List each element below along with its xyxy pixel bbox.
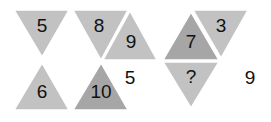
triangle-puzzle: 58973?610 59	[0, 0, 271, 122]
number-triangle: 10	[73, 63, 128, 110]
loose-number: 9	[245, 67, 256, 88]
triangle-number: 7	[186, 31, 197, 52]
triangle-number: 3	[216, 15, 227, 36]
number-triangle: 6	[14, 63, 69, 110]
triangle-number: 5	[37, 15, 48, 36]
loose-number: 5	[125, 67, 136, 88]
triangle-number: 8	[94, 15, 105, 36]
unknown-triangle: ?	[163, 62, 219, 108]
triangle-number: 6	[37, 81, 48, 102]
number-triangle: 5	[14, 10, 69, 57]
triangle-number: ?	[186, 66, 197, 87]
triangle-number: 10	[90, 81, 111, 102]
triangle-number: 9	[126, 31, 137, 52]
